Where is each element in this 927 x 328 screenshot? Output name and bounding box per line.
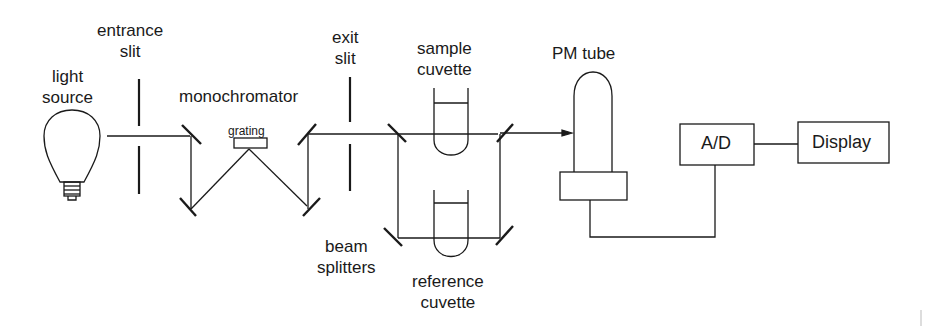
pm-tube: [560, 72, 715, 237]
label-ad: A/D: [701, 133, 731, 154]
label-pm-tube: PM tube: [552, 43, 615, 64]
label-entrance-slit: entrance slit: [97, 20, 163, 62]
label-light-source: light source: [42, 66, 93, 108]
label-sample-cuvette: sample cuvette: [417, 38, 472, 80]
arrow-icon: [562, 130, 572, 136]
label-reference-cuvette: reference cuvette: [412, 271, 484, 313]
label-exit-slit: exit slit: [332, 27, 358, 69]
label-display: Display: [812, 132, 871, 153]
label-beam-splitters: beam splitters: [317, 236, 376, 278]
reference-cuvette: [434, 190, 468, 257]
label-monochromator: monochromator: [179, 86, 298, 107]
light-bulb-icon: [44, 110, 100, 200]
sample-cuvette: [434, 88, 468, 155]
signal-wire: [590, 165, 715, 237]
label-grating: grating: [228, 124, 265, 138]
beam-splitters: [384, 124, 513, 246]
grating: [234, 138, 267, 148]
